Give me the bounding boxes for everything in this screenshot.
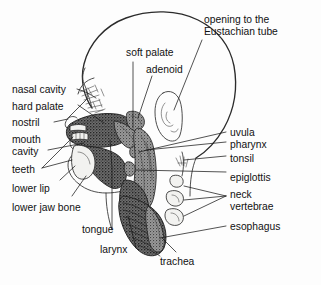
label-neck-vert-1: neck — [230, 189, 253, 200]
label-esophagus: esophagus — [230, 221, 280, 232]
label-nasal-cavity: nasal cavity — [12, 84, 67, 95]
teeth-row — [72, 133, 88, 141]
neck-vertebra-2 — [166, 191, 183, 207]
label-lower-lip: lower lip — [12, 183, 50, 194]
label-tongue: tongue — [82, 224, 114, 235]
label-epiglottis: epiglottis — [230, 172, 271, 183]
label-teeth: teeth — [12, 164, 35, 175]
label-mouth-cavity-2: cavity — [12, 146, 39, 157]
label-eustachian-1: opening to the — [204, 14, 270, 25]
label-uvula: uvula — [230, 127, 255, 138]
anatomy-diagram: nasal cavity hard palate nostril mouth c… — [0, 0, 321, 285]
neck-vertebra-1 — [170, 175, 183, 187]
label-larynx: larynx — [100, 244, 128, 255]
label-pharynx: pharynx — [230, 139, 267, 150]
neck-vertebra-3 — [165, 209, 183, 226]
label-adenoid: adenoid — [146, 64, 183, 75]
label-eustachian-2: Eustachian tube — [204, 26, 278, 37]
label-tonsil: tonsil — [230, 153, 254, 164]
label-soft-palate: soft palate — [126, 47, 174, 58]
epiglottis-flap — [124, 162, 135, 176]
label-lower-jaw-bone: lower jaw bone — [12, 202, 81, 213]
label-mouth-cavity-1: mouth — [12, 134, 41, 145]
label-trachea: trachea — [160, 256, 195, 267]
label-neck-vert-2: vertebrae — [230, 201, 274, 212]
label-hard-palate: hard palate — [12, 101, 64, 112]
label-nostril: nostril — [12, 117, 39, 128]
upper-teeth — [70, 125, 86, 132]
